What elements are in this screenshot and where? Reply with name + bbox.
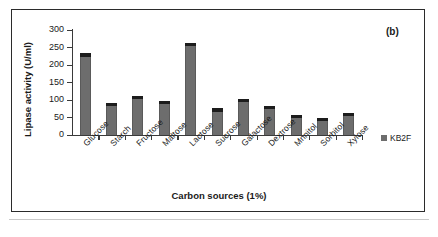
bar-starch bbox=[106, 105, 117, 135]
bottom-divider bbox=[9, 219, 429, 220]
panel-label: (b) bbox=[386, 26, 399, 37]
y-tick-label-0: 0 bbox=[34, 129, 64, 139]
y-tick-100 bbox=[67, 100, 72, 101]
bar-fructose bbox=[132, 98, 143, 135]
y-axis-title: Lipase activity (U/ml) bbox=[22, 30, 33, 150]
y-tick-150 bbox=[67, 82, 72, 83]
legend-label-kb2f: KB2F bbox=[390, 133, 411, 143]
y-tick-0 bbox=[67, 135, 72, 136]
y-tick-label-150: 150 bbox=[34, 77, 64, 87]
y-axis-line bbox=[72, 29, 73, 136]
y-tick-50 bbox=[67, 117, 72, 118]
error-bar-cap-galactose bbox=[238, 99, 249, 101]
y-tick-label-50: 50 bbox=[34, 112, 64, 122]
legend: KB2F bbox=[381, 133, 411, 143]
bar-galactose bbox=[238, 101, 249, 135]
bar-lactose bbox=[185, 45, 196, 135]
y-tick-300 bbox=[67, 30, 72, 31]
error-bar-cap-sucrose bbox=[212, 108, 223, 110]
y-tick-250 bbox=[67, 47, 72, 48]
x-axis-title: Carbon sources (1%) bbox=[0, 190, 438, 201]
error-bar-glucose bbox=[80, 55, 91, 57]
legend-swatch-kb2f bbox=[381, 135, 387, 141]
error-bar-cap-starch bbox=[106, 103, 117, 105]
y-tick-label-100: 100 bbox=[34, 94, 64, 104]
bar-glucose bbox=[80, 56, 91, 135]
error-bar-cap-lactose bbox=[185, 43, 196, 45]
figure-root: (b) Lipase activity (U/ml) 0501001502002… bbox=[0, 0, 438, 237]
y-tick-200 bbox=[67, 65, 72, 66]
error-bar-lactose bbox=[185, 44, 196, 46]
error-bar-cap-fructose bbox=[132, 96, 143, 98]
y-tick-label-200: 200 bbox=[34, 59, 64, 69]
error-bar-cap-xylose bbox=[343, 113, 354, 115]
error-bar-cap-glucose bbox=[80, 53, 91, 55]
y-tick-label-250: 250 bbox=[34, 42, 64, 52]
error-bar-cap-sorbitol bbox=[317, 118, 328, 120]
error-bar-cap-mnnitol bbox=[291, 115, 302, 117]
error-bar-cap-dextrose bbox=[264, 106, 275, 108]
error-bar-cap-maltose bbox=[159, 101, 170, 103]
y-tick-label-300: 300 bbox=[34, 24, 64, 34]
error-bar-fructose bbox=[132, 97, 143, 99]
